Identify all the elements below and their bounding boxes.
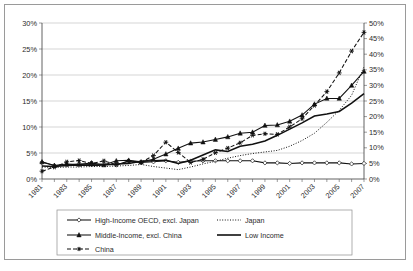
series-line — [42, 67, 364, 170]
x-axis-tick-label: 1997 — [225, 182, 243, 200]
right-axis-tick-label: 0% — [369, 175, 380, 184]
x-axis-tick-label: 2001 — [274, 182, 292, 200]
marker-open-diamond — [226, 159, 230, 163]
right-axis-tick-label: 10% — [369, 143, 384, 152]
legend-item-china[interactable]: China — [67, 245, 114, 254]
chart-frame: 0%5%10%15%20%25%30%0%5%10%15%20%25%30%35… — [4, 4, 406, 260]
marker-open-diamond — [263, 161, 267, 165]
series-china — [40, 30, 367, 173]
marker-open-diamond — [312, 161, 316, 165]
x-axis-tick-label: 1991 — [150, 182, 168, 200]
line-chart: 0%5%10%15%20%25%30%0%5%10%15%20%25%30%35… — [5, 5, 407, 261]
right-axis-tick-label: 40% — [369, 50, 384, 59]
legend-label: China — [95, 245, 114, 254]
left-axis-tick-label: 15% — [22, 97, 37, 106]
marker-open-diamond — [213, 159, 217, 163]
right-axis-tick-label: 35% — [369, 65, 384, 74]
marker-open-diamond — [337, 161, 341, 165]
series-line — [42, 32, 364, 171]
legend-item-low-income[interactable]: Low Income — [217, 231, 284, 240]
x-axis-tick-label: 1981 — [26, 182, 44, 200]
marker-open-diamond — [350, 162, 354, 166]
x-axis-tick-label: 1983 — [51, 182, 69, 200]
legend-label: Japan — [245, 216, 265, 225]
series-middle-income-excl-china — [40, 69, 366, 167]
x-axis-tick-label: 2007 — [348, 182, 366, 200]
x-axis-tick-label: 1985 — [76, 182, 94, 200]
x-axis-tick-label: 1987 — [101, 182, 119, 200]
marker-open-diamond — [275, 161, 279, 165]
marker-open-diamond — [288, 161, 292, 165]
x-axis-tick-label: 1989 — [125, 182, 143, 200]
legend-label: Low Income — [245, 231, 284, 240]
left-axis-tick-label: 10% — [22, 123, 37, 132]
left-axis-tick-label: 5% — [26, 149, 37, 158]
right-axis-tick-label: 30% — [369, 81, 384, 90]
left-axis-tick-label: 25% — [22, 45, 37, 54]
marker-open-diamond — [325, 161, 329, 165]
x-axis-tick-label: 1999 — [249, 182, 267, 200]
x-axis-tick-label: 2005 — [324, 182, 342, 200]
marker-open-diamond — [362, 161, 366, 165]
left-axis-tick-label: 20% — [22, 71, 37, 80]
x-axis-tick-label: 1993 — [175, 182, 193, 200]
x-axis-tick-label: 2003 — [299, 182, 317, 200]
right-axis-tick-label: 20% — [369, 112, 384, 121]
legend-item-japan[interactable]: Japan — [217, 216, 265, 225]
legend-item-high-income-oecd-excl-japan[interactable]: High-Income OECD, excl. Japan — [67, 216, 199, 225]
right-axis-tick-label: 45% — [369, 34, 384, 43]
marker-open-diamond — [300, 161, 304, 165]
right-axis-tick-label: 25% — [369, 97, 384, 106]
right-axis-tick-label: 15% — [369, 128, 384, 137]
left-axis-tick-label: 30% — [22, 19, 37, 28]
x-axis-tick-label: 1995 — [200, 182, 218, 200]
left-axis-tick-label: 0% — [26, 175, 37, 184]
marker-open-diamond — [238, 159, 242, 163]
right-axis-tick-label: 50% — [369, 19, 384, 28]
legend-label: Middle-Income, excl. China — [95, 231, 182, 240]
legend-label: High-Income OECD, excl. Japan — [95, 216, 199, 225]
marker-open-diamond — [77, 218, 81, 222]
series-line — [42, 71, 364, 165]
series-japan — [42, 67, 364, 170]
marker-open-diamond — [250, 159, 254, 163]
right-axis-tick-label: 5% — [369, 159, 380, 168]
legend-item-middle-income-excl-china[interactable]: Middle-Income, excl. China — [67, 231, 182, 240]
